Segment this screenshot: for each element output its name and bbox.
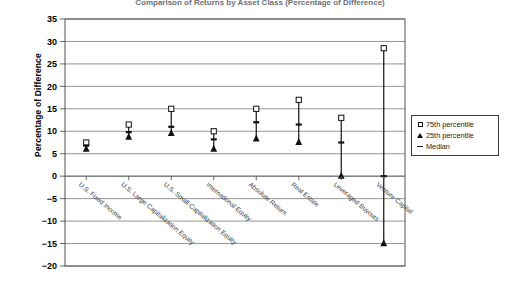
- x-category-label: Real Estate: [290, 181, 321, 208]
- filled-triangle-icon: [415, 131, 425, 141]
- x-category-label: Leveraged Buyouts: [332, 181, 381, 224]
- legend-item-25th: 25th percentile: [415, 130, 495, 141]
- y-tick-label: −20: [42, 261, 57, 271]
- marker-75th-percentile: [126, 122, 131, 127]
- x-category-label-text: U.S. Fixed Income: [78, 181, 124, 221]
- y-tick-label: 20: [47, 82, 57, 92]
- y-tick-label: 35: [47, 14, 57, 24]
- x-category-label-text: U.S. Small Capitalization Equity: [162, 181, 239, 247]
- legend-label-25th: 25th percentile: [425, 131, 474, 140]
- marker-75th-percentile: [211, 129, 216, 134]
- marker-75th-percentile: [169, 106, 174, 111]
- dash-icon: [415, 142, 425, 152]
- marker-75th-percentile: [296, 97, 301, 102]
- y-tick-label: −5: [47, 194, 57, 204]
- legend-label-median: Median: [425, 142, 450, 151]
- legend-item-median: Median: [415, 141, 495, 152]
- open-square-icon: [415, 120, 425, 130]
- y-tick-label: 5: [52, 149, 57, 159]
- x-category-label-text: Leveraged Buyouts: [332, 181, 381, 224]
- marker-25th-percentile: [125, 133, 132, 140]
- marker-25th-percentile: [210, 145, 217, 152]
- x-category-label: U.S. Small Capitalization Equity: [162, 181, 239, 247]
- legend-label-75th: 75th percentile: [425, 120, 474, 129]
- y-tick-label: 0: [52, 171, 57, 181]
- legend-item-75th: 75th percentile: [415, 119, 495, 130]
- marker-25th-percentile: [253, 135, 260, 142]
- y-tick-label: 10: [47, 126, 57, 136]
- y-tick-label: −10: [42, 216, 57, 226]
- x-category-label: U.S. Large Capitalization Equity: [119, 181, 196, 247]
- marker-75th-percentile: [254, 106, 259, 111]
- x-category-label: U.S. Fixed Income: [78, 181, 124, 221]
- y-tick-label: 15: [47, 104, 57, 114]
- x-category-label-text: Real Estate: [290, 181, 321, 208]
- chart-container: Comparison of Returns by Asset Class (Pe…: [0, 0, 511, 305]
- marker-75th-percentile: [339, 115, 344, 120]
- marker-25th-percentile: [380, 239, 387, 246]
- chart-legend: 75th percentile 25th percentile Median: [411, 115, 499, 156]
- marker-25th-percentile: [295, 138, 302, 145]
- marker-75th-percentile: [381, 46, 386, 51]
- marker-75th-percentile: [84, 140, 89, 145]
- x-category-label-text: U.S. Large Capitalization Equity: [119, 181, 196, 247]
- y-tick-label: 30: [47, 37, 57, 47]
- plot-border: [65, 19, 405, 266]
- y-tick-label: 25: [47, 59, 57, 69]
- marker-25th-percentile: [168, 129, 175, 136]
- y-tick-label: −15: [42, 239, 57, 249]
